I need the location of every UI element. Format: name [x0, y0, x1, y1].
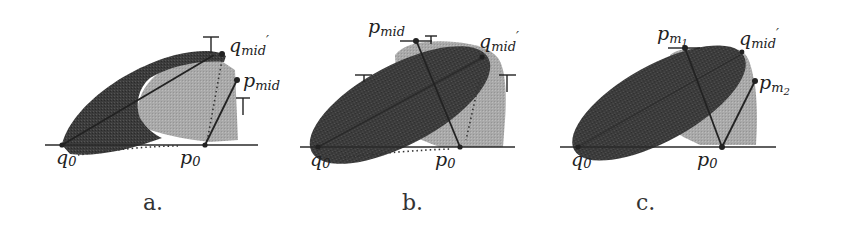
point-p0: [457, 144, 462, 149]
caption-b: b.: [402, 190, 423, 215]
panel-c: pm1 qmid′ pm2 q0 p0 c.: [556, 22, 790, 215]
point-p0: [719, 144, 725, 150]
panel-a: qmid′ pmid q0 p0 a.: [45, 33, 280, 215]
label-p0: p0: [180, 146, 200, 169]
figure-canvas: qmid′ pmid q0 p0 a.: [0, 0, 841, 231]
caption-c: c.: [636, 190, 655, 215]
point-p-mid: [413, 38, 419, 44]
label-p-m2: pm2: [759, 71, 790, 97]
label-p0: p0: [697, 148, 717, 171]
point-p0: [202, 142, 207, 147]
t-marker: [203, 37, 219, 53]
label-p-mid: pmid: [243, 69, 280, 93]
point-q-mid-prime: [740, 50, 745, 55]
caption-a: a.: [143, 190, 163, 215]
label-p0: p0: [435, 148, 455, 171]
label-p-m1: pm1: [657, 22, 688, 48]
label-p-mid: pmid: [368, 15, 405, 39]
panel-b: pmid qmid′ q0 p0 b.: [293, 15, 519, 215]
label-q-mid-prime: qmid′: [739, 26, 779, 51]
point-p-m2: [752, 78, 758, 84]
label-q-mid-prime: qmid′: [229, 33, 269, 58]
t-marker: [236, 98, 250, 115]
label-q-mid-prime: qmid′: [479, 29, 519, 54]
point-q-mid-prime: [219, 51, 225, 57]
point-q-mid-prime: [479, 54, 484, 59]
point-p-mid: [234, 77, 240, 83]
